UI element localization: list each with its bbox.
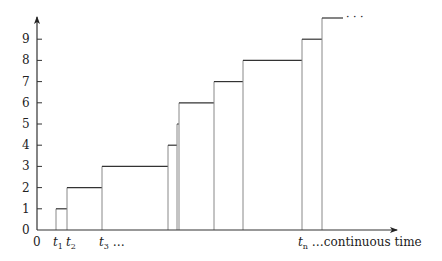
x-label-tn: tn …continuous time	[298, 235, 422, 251]
origin-label: 0	[33, 235, 41, 249]
step-3	[102, 166, 168, 230]
step-2	[67, 188, 102, 230]
x-label-t3: t3 …	[99, 235, 125, 251]
y-tick-label: 0	[22, 223, 30, 237]
step-10	[322, 18, 343, 230]
y-axis-ticks: 0123456789	[22, 32, 42, 237]
y-tick-label: 3	[22, 159, 30, 173]
step-6	[179, 103, 214, 230]
step-1	[56, 209, 67, 230]
y-tick-label: 1	[22, 202, 30, 216]
step-function-diagram: 0123456789 · · · 0 t1 t2 t3 … tn …contin…	[0, 0, 442, 261]
continuation-dots: · · ·	[346, 11, 363, 24]
y-tick-label: 2	[22, 181, 30, 195]
step-9	[302, 39, 322, 230]
y-tick-label: 9	[22, 32, 30, 46]
y-tick-label: 4	[22, 138, 30, 152]
step-7	[214, 82, 243, 230]
y-tick-label: 6	[22, 96, 30, 110]
x-label-t1: t1	[53, 235, 63, 251]
x-label-t2: t2	[66, 235, 76, 251]
y-tick-label: 7	[22, 75, 30, 89]
y-tick-label: 5	[22, 117, 30, 131]
y-tick-label: 8	[22, 53, 30, 67]
step-8	[243, 60, 302, 230]
step-bars	[56, 18, 343, 230]
step-4	[168, 145, 177, 230]
